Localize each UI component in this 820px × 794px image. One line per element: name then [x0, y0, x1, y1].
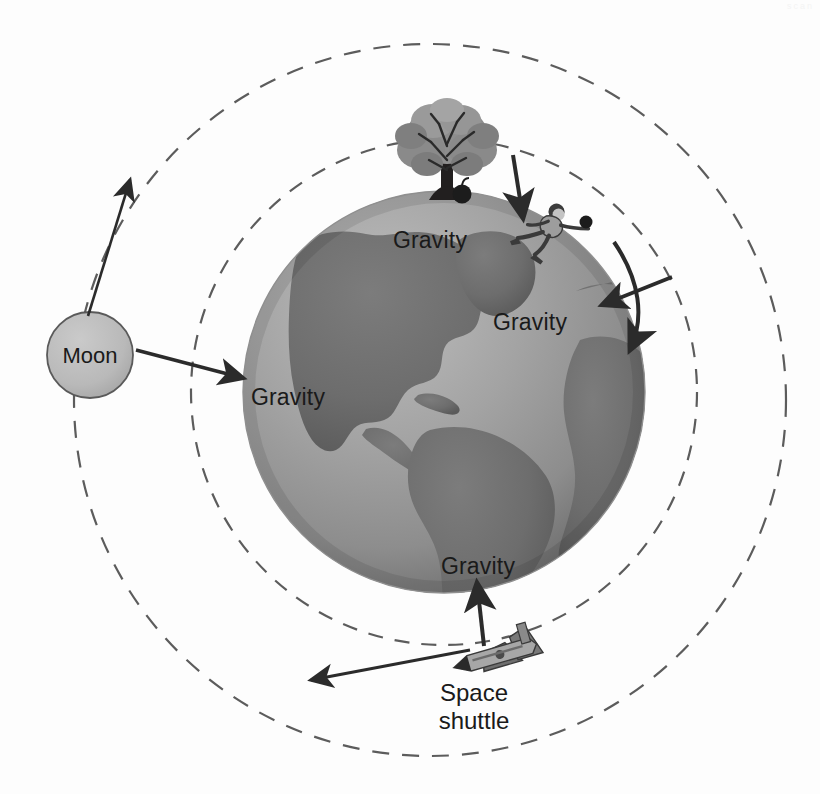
gravity-diagram-svg: Moon: [0, 0, 820, 794]
gravity-label-thrower: Gravity: [493, 309, 568, 335]
space-shuttle: [447, 620, 543, 679]
gravity-label-shuttle: Gravity: [441, 553, 516, 579]
apple-stem: [462, 178, 469, 185]
gravity-label-tree: Gravity: [393, 227, 468, 253]
thrown-ball: [580, 216, 593, 229]
gravity-label-moon: Gravity: [251, 384, 326, 410]
moon-velocity-arrow: [88, 180, 130, 316]
diagram-canvas: scan: [0, 0, 820, 794]
shuttle-caption-line2: shuttle: [439, 707, 510, 734]
falling-apple: [453, 185, 472, 204]
moon: Moon: [47, 312, 133, 398]
shuttle-caption-line1: Space: [440, 679, 508, 706]
shuttle-velocity-arrow: [311, 650, 470, 680]
shuttle-gravity-arrow: [477, 583, 484, 646]
apple-tree: [395, 98, 499, 200]
moon-gravity-arrow: [136, 350, 243, 378]
moon-label: Moon: [62, 343, 117, 368]
